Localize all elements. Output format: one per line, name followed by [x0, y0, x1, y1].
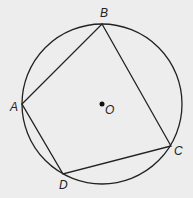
label-a: A: [10, 100, 18, 114]
center-point: [100, 102, 105, 107]
diagram-canvas: [0, 0, 193, 198]
label-d: D: [59, 178, 68, 192]
label-c: C: [174, 144, 183, 158]
label-o: O: [105, 103, 114, 117]
quadrilateral-abcd: [22, 24, 171, 174]
label-b: B: [100, 6, 108, 20]
